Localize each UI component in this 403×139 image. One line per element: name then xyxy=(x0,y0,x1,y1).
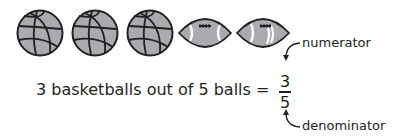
fraction-denominator: 5 xyxy=(278,93,292,112)
fraction-numerator: 3 xyxy=(278,72,292,91)
numerator-label: numerator xyxy=(302,35,371,50)
denominator-label: denominator xyxy=(302,118,385,133)
basketball-icon xyxy=(73,11,118,56)
equation-text: 3 basketballs out of 5 balls = xyxy=(36,80,269,99)
numerator-arrow-icon xyxy=(283,43,300,61)
football-icon xyxy=(237,19,289,47)
football-icon xyxy=(179,19,231,47)
basketball-icon xyxy=(128,11,173,56)
fraction: 3 5 xyxy=(278,72,292,112)
denominator-arrow-icon xyxy=(283,109,300,127)
basketball-icon xyxy=(18,11,63,56)
